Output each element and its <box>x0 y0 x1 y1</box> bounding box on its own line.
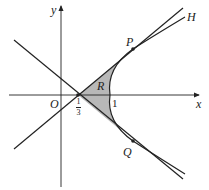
diagram: y x O R P Q H 1 1 3 <box>0 0 209 190</box>
point-q-label: Q <box>123 146 132 158</box>
point-p-label: P <box>126 36 133 48</box>
point-q <box>131 139 135 143</box>
y-axis-label: y <box>51 4 56 16</box>
tangent-line-q <box>14 40 183 179</box>
tick-one-label: 1 <box>112 98 118 109</box>
x-axis-label: x <box>196 98 201 110</box>
hyperbola-h <box>109 17 185 174</box>
tick-one-third-label: 1 3 <box>76 98 81 117</box>
origin-label: O <box>50 98 59 110</box>
curve-h-label: H <box>187 11 196 23</box>
region-label: R <box>97 80 104 92</box>
fraction-denominator: 3 <box>77 109 81 117</box>
fraction-numerator: 1 <box>77 98 81 106</box>
hyperbola-figure <box>0 0 209 190</box>
